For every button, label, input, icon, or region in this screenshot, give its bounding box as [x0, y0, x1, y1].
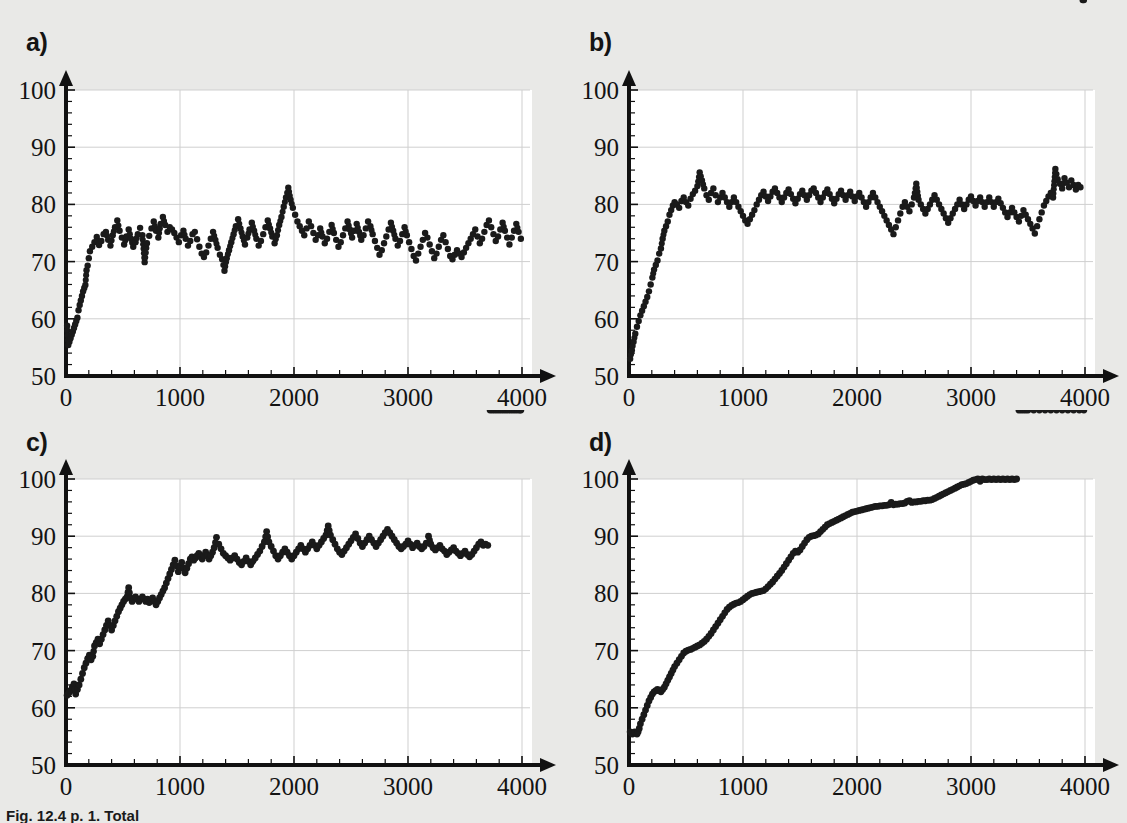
y-tick-label: 80	[31, 191, 56, 218]
y-tick-label: 100	[582, 77, 620, 104]
y-tick-label: 60	[594, 306, 619, 333]
y-tick-label: 90	[594, 523, 619, 550]
y-tick-label: 100	[582, 466, 620, 493]
panel-c: c) 506070809010001000200030004000	[0, 410, 563, 810]
x-tick-label: 0	[60, 773, 73, 800]
figure-caption: Fig. 12.4 p. 1. Total	[6, 807, 139, 823]
x-tick-label: 3000	[946, 773, 996, 800]
x-tick-label: 4000	[497, 773, 547, 800]
x-tick-label: 3000	[383, 384, 433, 410]
x-tick-label: 1000	[718, 384, 768, 410]
y-tick-label: 60	[31, 306, 56, 333]
y-tick-label: 60	[594, 695, 619, 722]
x-tick-label: 0	[623, 384, 636, 410]
x-tick-label: 1000	[718, 773, 768, 800]
y-tick-label: 80	[31, 580, 56, 607]
x-tick-label: 4000	[497, 384, 547, 410]
panel-d-svg: 506070809010001000200030004000	[563, 410, 1127, 810]
y-tick-label: 80	[594, 191, 619, 218]
panel-b-plot: 506070809010001000200030004000	[563, 0, 1127, 410]
y-tick-label: 50	[594, 752, 619, 779]
y-tick-label: 100	[19, 77, 57, 104]
panel-d: d) 506070809010001000200030004000	[563, 410, 1127, 810]
panel-a-plot: 506070809010001000200030004000	[0, 0, 563, 410]
x-tick-label: 0	[623, 773, 636, 800]
y-tick-label: 90	[31, 523, 56, 550]
y-tick-label: 70	[594, 638, 619, 665]
y-tick-label: 70	[594, 249, 619, 276]
y-tick-label: 80	[594, 580, 619, 607]
x-tick-label: 0	[60, 384, 73, 410]
x-tick-label: 1000	[155, 773, 205, 800]
x-tick-label: 1000	[155, 384, 205, 410]
x-tick-label: 2000	[269, 384, 319, 410]
x-tick-label: 4000	[1060, 384, 1110, 410]
panel-b: b) 506070809010001000200030004000	[563, 0, 1127, 410]
x-tick-label: 2000	[269, 773, 319, 800]
y-tick-label: 90	[594, 134, 619, 161]
y-tick-label: 50	[31, 752, 56, 779]
y-tick-label: 70	[31, 638, 56, 665]
panel-a-svg: 506070809010001000200030004000	[0, 0, 563, 410]
y-tick-label: 50	[31, 363, 56, 390]
x-tick-label: 2000	[832, 384, 882, 410]
y-tick-label: 70	[31, 249, 56, 276]
x-tick-label: 2000	[832, 773, 882, 800]
y-tick-label: 100	[19, 466, 57, 493]
panel-b-svg: 506070809010001000200030004000	[563, 0, 1127, 410]
panel-c-plot: 506070809010001000200030004000	[0, 410, 563, 810]
panel-c-svg: 506070809010001000200030004000	[0, 410, 563, 810]
y-tick-label: 60	[31, 695, 56, 722]
panel-a: a) 506070809010001000200030004000	[0, 0, 563, 410]
y-tick-label: 50	[594, 363, 619, 390]
x-tick-label: 3000	[946, 384, 996, 410]
y-tick-label: 90	[31, 134, 56, 161]
x-tick-label: 3000	[383, 773, 433, 800]
x-tick-label: 4000	[1060, 773, 1110, 800]
panel-d-plot: 506070809010001000200030004000	[563, 410, 1127, 810]
